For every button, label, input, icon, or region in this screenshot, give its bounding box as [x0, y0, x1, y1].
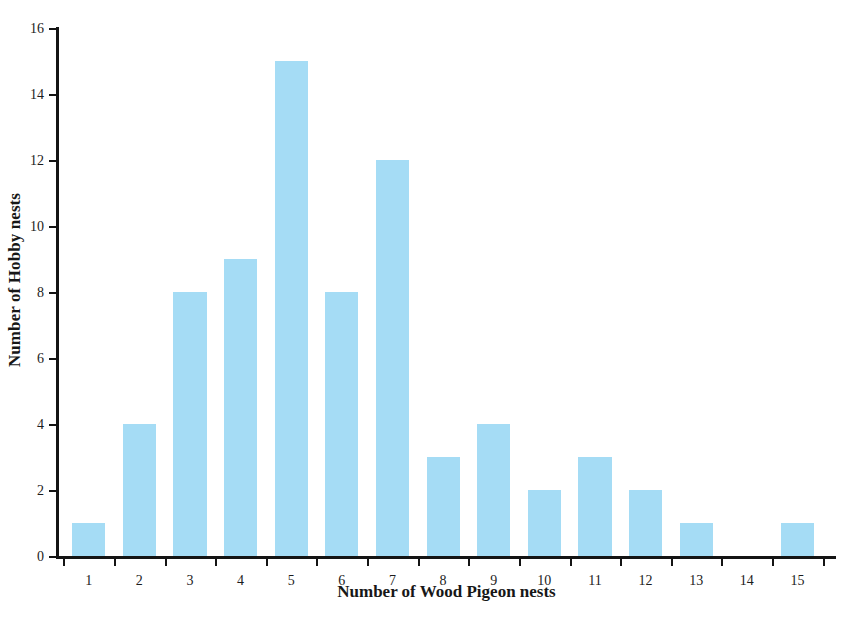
bar [123, 424, 156, 556]
y-axis-tick: 12 [49, 160, 57, 162]
bar [528, 490, 561, 556]
x-axis-tick [266, 557, 268, 566]
x-axis-tick [620, 557, 622, 566]
y-axis-title: Number of Hobby nests [0, 0, 30, 560]
bar [427, 457, 460, 556]
y-axis-tick-label: 14 [30, 87, 44, 103]
y-axis-tick: 2 [49, 490, 57, 492]
x-axis-line [56, 556, 836, 559]
bar [781, 523, 814, 556]
bar [325, 292, 358, 556]
x-axis-tick [114, 557, 116, 566]
y-axis-tick-label: 2 [37, 483, 44, 499]
x-axis-tick [570, 557, 572, 566]
bar-chart-figure: Number of Hobby nests 0246810121416 1234… [0, 0, 850, 632]
bar [680, 523, 713, 556]
y-axis-tick-label: 16 [30, 21, 44, 37]
x-axis-tick [418, 557, 420, 566]
x-axis-tick [468, 557, 470, 566]
x-axis-tick [772, 557, 774, 566]
bar [477, 424, 510, 556]
y-axis-tick: 0 [49, 556, 57, 558]
x-axis-tick [671, 557, 673, 566]
bar [173, 292, 206, 556]
y-axis-tick: 16 [49, 28, 57, 30]
bar [629, 490, 662, 556]
y-axis-tick-label: 10 [30, 219, 44, 235]
x-axis-tick [215, 557, 217, 566]
y-axis-tick-label: 12 [30, 153, 44, 169]
y-axis-tick: 4 [49, 424, 57, 426]
y-axis-tick: 8 [49, 292, 57, 294]
x-axis-tick [367, 557, 369, 566]
x-axis-tick [823, 557, 825, 566]
x-axis-title: Number of Wood Pigeon nests [58, 582, 835, 602]
plot-area: 0246810121416 123456789101112131415 [58, 28, 835, 556]
x-axis-tick [165, 557, 167, 566]
y-axis-tick: 14 [49, 94, 57, 96]
y-axis-tick-label: 0 [37, 549, 44, 565]
y-axis-tick-label: 8 [37, 285, 44, 301]
y-axis-tick-label: 4 [37, 417, 44, 433]
x-axis-tick [519, 557, 521, 566]
x-axis-tick [721, 557, 723, 566]
bar [224, 259, 257, 556]
y-axis-tick-label: 6 [37, 351, 44, 367]
y-axis-title-label: Number of Hobby nests [5, 193, 25, 367]
x-axis-tick [316, 557, 318, 566]
bar [578, 457, 611, 556]
y-axis-tick: 6 [49, 358, 57, 360]
bar [376, 160, 409, 556]
bar [72, 523, 105, 556]
y-axis-tick: 10 [49, 226, 57, 228]
x-axis-title-label: Number of Wood Pigeon nests [337, 582, 556, 601]
x-axis-tick [63, 557, 65, 566]
bar [275, 61, 308, 556]
figure-caption [58, 620, 835, 632]
